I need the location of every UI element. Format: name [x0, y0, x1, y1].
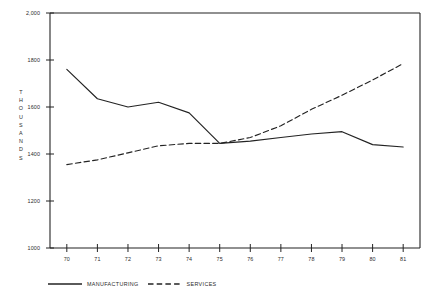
y-axis-title-letter: T: [19, 88, 23, 96]
y-axis-title-letter: N: [19, 137, 23, 145]
x-tick-label: 72: [119, 256, 137, 262]
y-tick-label: 1000: [12, 245, 40, 251]
x-tick-label: 71: [88, 256, 106, 262]
legend-entry: SERVICES: [148, 281, 217, 287]
y-axis-title-letter: S: [19, 121, 23, 129]
x-tick-label: 77: [272, 256, 290, 262]
legend-label: SERVICES: [187, 281, 217, 287]
x-tick-label: 70: [58, 256, 76, 262]
legend-solid-line-icon: [48, 281, 82, 287]
x-tick-label: 81: [394, 256, 412, 262]
x-tick-label: 75: [211, 256, 229, 262]
y-tick-label: 1400: [12, 151, 40, 157]
y-axis-title-letter: A: [19, 129, 23, 137]
x-tick-label: 74: [180, 256, 198, 262]
x-tick-label: 76: [241, 256, 259, 262]
y-tick-label: 1200: [12, 198, 40, 204]
legend-entry: MANUFACTURING: [48, 281, 139, 287]
x-tick-label: 80: [364, 256, 382, 262]
y-tick-label: 2,000: [12, 10, 40, 16]
y-tick-label: 1600: [12, 104, 40, 110]
x-tick-label: 79: [333, 256, 351, 262]
y-tick-label: 1800: [12, 57, 40, 63]
x-tick-label: 73: [150, 256, 168, 262]
y-axis-title-letter: U: [19, 113, 23, 121]
x-tick-label: 78: [302, 256, 320, 262]
chart-legend: MANUFACTURINGSERVICES: [48, 281, 217, 287]
chart-figure: THOUSANDS 100012001400160018002,000 7071…: [0, 0, 437, 301]
legend-label: MANUFACTURING: [87, 281, 139, 287]
legend-dashed-line-icon: [148, 281, 182, 287]
series-line-services: [67, 64, 403, 165]
series-line-manufacturing: [67, 69, 403, 147]
